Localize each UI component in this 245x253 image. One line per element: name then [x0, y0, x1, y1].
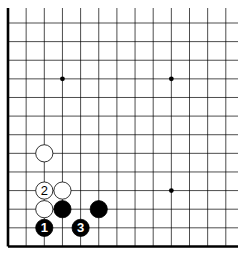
white-stone-icon [54, 182, 71, 199]
white-stone [36, 145, 53, 162]
move-number-label: 2 [41, 183, 48, 198]
white-stone-icon [36, 145, 53, 162]
white-stone-icon [36, 201, 53, 218]
star-point-icon [169, 188, 174, 193]
white-stone [36, 201, 53, 218]
move-number-label: 3 [77, 220, 84, 235]
black-stone: 1 [36, 219, 53, 236]
star-point-icon [60, 76, 65, 81]
white-stone [54, 182, 71, 199]
go-board: 213 [0, 0, 245, 253]
black-stone [54, 201, 71, 218]
move-number-label: 1 [41, 220, 48, 235]
black-stone [90, 201, 107, 218]
black-stone-icon [54, 201, 71, 218]
star-point-icon [169, 76, 174, 81]
black-stone-icon [90, 201, 107, 218]
white-stone: 2 [36, 182, 53, 199]
black-stone: 3 [72, 219, 89, 236]
